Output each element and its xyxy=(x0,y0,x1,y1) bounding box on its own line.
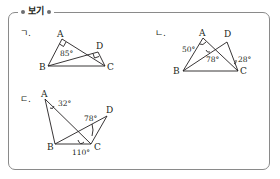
point-d: D xyxy=(106,105,113,115)
point-b: B xyxy=(47,142,54,152)
angle-110: 110° xyxy=(72,148,90,157)
angle-78: 78° xyxy=(84,114,98,123)
figure-digeut: A B C D 32° 78° 110° xyxy=(0,0,280,179)
point-c: C xyxy=(94,142,101,152)
point-a: A xyxy=(40,89,48,99)
angle-32: 32° xyxy=(58,99,72,108)
